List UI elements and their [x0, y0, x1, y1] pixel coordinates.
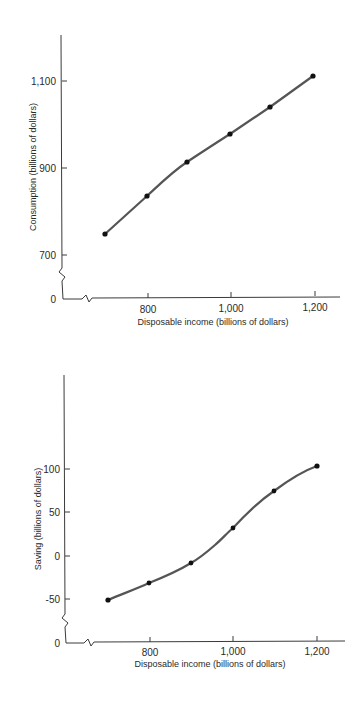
data-point	[105, 597, 110, 602]
data-point	[272, 489, 277, 494]
y-axis-title: Consumption (billions of dollars)	[28, 103, 38, 231]
figure: 1,100 900 700 0 800 1,000 1,200 Disposab…	[0, 0, 362, 701]
data-point	[147, 581, 152, 586]
saving-chart: 100 50 0 -50 0 800 1,000 1,200 Disposabl…	[33, 375, 345, 669]
data-point	[189, 561, 194, 566]
x-axis-title: Disposable income (billions of dollars)	[134, 659, 285, 669]
y-tick-label: 700	[39, 250, 56, 261]
saving-line	[108, 466, 317, 600]
y-tick-label: 50	[49, 507, 61, 518]
data-point	[102, 231, 107, 236]
x-tick-label: 800	[142, 647, 159, 658]
x-tick-label: 1,200	[304, 646, 329, 657]
data-point	[310, 73, 315, 78]
data-point	[231, 526, 236, 531]
y-tick-label: -50	[46, 594, 61, 605]
data-point	[227, 131, 232, 136]
origin-label: 0	[54, 638, 60, 649]
y-axis	[59, 35, 65, 299]
data-point	[184, 159, 189, 164]
x-tick-label: 1,000	[220, 646, 245, 657]
data-point	[314, 463, 319, 468]
y-tick-label: 1,100	[31, 76, 56, 87]
x-tick-label: 800	[140, 304, 157, 315]
x-tick-label: 1,200	[302, 302, 327, 313]
origin-label: 0	[50, 294, 56, 305]
x-axis	[63, 295, 340, 302]
y-axis	[62, 375, 68, 643]
x-tick-label: 1,000	[218, 303, 243, 314]
y-tick-label: 100	[43, 464, 60, 475]
x-axis	[66, 639, 345, 646]
consumption-chart: 1,100 900 700 0 800 1,000 1,200 Disposab…	[28, 35, 340, 327]
y-axis-title: Saving (billions of dollars)	[33, 468, 43, 571]
data-point	[267, 104, 272, 109]
y-tick-label: 900	[39, 163, 56, 174]
data-point	[144, 193, 149, 198]
x-axis-title: Disposable income (billions of dollars)	[137, 317, 288, 327]
consumption-line	[105, 76, 313, 234]
y-tick-label: 0	[54, 551, 60, 562]
